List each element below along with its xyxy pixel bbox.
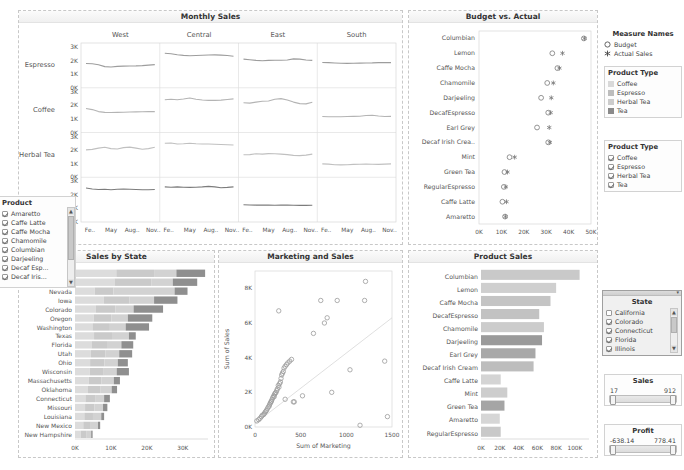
scroll-thumb[interactable] — [68, 216, 74, 260]
color-swatch — [608, 90, 614, 96]
svg-text:Fe..: Fe.. — [242, 227, 252, 233]
checkbox[interactable] — [2, 256, 8, 262]
product-filter-item[interactable]: Caffe Mocha — [2, 227, 63, 236]
profit-slider-track[interactable] — [609, 445, 677, 453]
sales-min-value: 17 — [610, 387, 618, 394]
monthly-sales-plot[interactable]: WestCentralEastSouthEspresso0K1K2K3KCoff… — [19, 23, 402, 244]
svg-text:3K: 3K — [70, 88, 79, 95]
svg-text:May: May — [263, 227, 276, 234]
product-type-filter-label: Tea — [617, 181, 628, 188]
svg-text:Mint: Mint — [462, 153, 476, 160]
measure-legend-label: Actual Sales — [614, 50, 653, 57]
product-type-filter-item[interactable]: Espresso — [608, 162, 678, 171]
checkbox[interactable] — [2, 274, 8, 280]
svg-text:Colorado: Colorado — [45, 306, 72, 313]
svg-text:Fe..: Fe.. — [321, 227, 331, 233]
svg-text:RegularEspresso: RegularEspresso — [424, 183, 475, 191]
product-type-filter-label: Herbal Tea — [617, 172, 650, 179]
state-filter-item[interactable]: Florida — [606, 335, 669, 344]
marketing-sales-title: Marketing and Sales — [219, 251, 402, 263]
product-type-filter-item[interactable]: Herbal Tea — [608, 171, 678, 180]
product-filter-item[interactable]: Darjeeling — [2, 254, 63, 263]
product-type-legend-item[interactable]: Espresso — [608, 88, 678, 97]
state-filter-window[interactable]: State CaliforniaColoradoConnecticutFlori… — [602, 290, 682, 356]
state-filter-item[interactable]: Colorado — [606, 317, 669, 326]
checkbox[interactable] — [2, 211, 8, 217]
profit-filter[interactable]: Profit -638.14 778.41 — [604, 424, 682, 456]
checkbox[interactable] — [606, 310, 612, 316]
scroll-up-arrow[interactable]: ▲ — [671, 309, 677, 316]
budget-actual-plot[interactable]: ColumbianLemonCaffe MochaChamomileDarjee… — [409, 23, 597, 244]
measure-names-title: Measure Names — [604, 30, 682, 38]
product-filter-item[interactable]: Chamomile — [2, 236, 63, 245]
svg-text:Texas: Texas — [54, 332, 72, 339]
svg-text:2K: 2K — [70, 57, 79, 64]
measure-legend-item[interactable]: Budget — [604, 40, 682, 49]
product-type-filter-item[interactable]: Coffee — [608, 153, 678, 162]
profit-slider-handle-right[interactable] — [670, 445, 676, 455]
product-sales-plot[interactable]: ColumbianLemonCaffe MochaDecafEspressoCh… — [409, 263, 597, 457]
checkbox[interactable] — [606, 346, 612, 352]
svg-text:100K: 100K — [567, 445, 582, 451]
product-type-filter-item[interactable]: Tea — [608, 180, 678, 189]
budget-actual-title: Budget vs. Actual — [409, 11, 597, 23]
product-filter-item[interactable]: Decaf Esp... — [2, 263, 63, 272]
scroll-down-arrow[interactable]: ▼ — [671, 345, 677, 352]
state-filter-label: Colorado — [615, 318, 643, 325]
checkbox[interactable] — [608, 173, 614, 179]
svg-text:10K: 10K — [496, 229, 507, 235]
checkbox[interactable] — [608, 155, 614, 161]
sales-slider-handle-right[interactable] — [670, 395, 676, 405]
svg-text:1K: 1K — [70, 70, 79, 77]
measure-legend-label: Budget — [614, 41, 637, 48]
state-filter-item[interactable]: California — [606, 308, 669, 317]
product-type-legend-item[interactable]: Herbal Tea — [608, 97, 678, 106]
product-type-legend-label: Tea — [617, 107, 628, 114]
checkbox[interactable] — [2, 247, 8, 253]
sales-filter[interactable]: Sales 17 912 — [604, 374, 682, 406]
product-filter-item[interactable]: Columbian — [2, 245, 63, 254]
svg-text:East: East — [271, 31, 286, 39]
product-type-legend-item[interactable]: Coffee — [608, 79, 678, 88]
state-filter-scrollbar[interactable]: ▲ ▼ — [670, 308, 678, 353]
checkbox[interactable] — [2, 229, 8, 235]
checkbox[interactable] — [2, 265, 8, 271]
product-type-legend-item[interactable]: Tea — [608, 106, 678, 115]
checkbox[interactable] — [2, 220, 8, 226]
checkbox[interactable] — [608, 164, 614, 170]
checkbox[interactable] — [608, 182, 614, 188]
svg-text:0K: 0K — [71, 445, 79, 451]
svg-text:Caffe Mocha: Caffe Mocha — [440, 299, 479, 306]
svg-text:Connecticut: Connecticut — [36, 395, 73, 402]
state-filter-label: California — [615, 309, 645, 316]
sales-slider-handle-left[interactable] — [610, 395, 616, 405]
checkbox[interactable] — [2, 238, 8, 244]
product-filter-label: Amaretto — [11, 210, 40, 217]
svg-text:Espresso: Espresso — [25, 61, 55, 69]
svg-text:2K: 2K — [70, 146, 79, 153]
checkbox[interactable] — [606, 328, 612, 334]
svg-text:Columbian: Columbian — [442, 34, 475, 41]
state-filter-item[interactable]: Illinois — [606, 344, 669, 353]
scroll-down-arrow[interactable]: ▼ — [68, 279, 74, 286]
svg-text:Mint: Mint — [465, 390, 479, 397]
product-filter-item[interactable]: Decaf Iris... — [2, 272, 63, 281]
marketing-sales-plot[interactable]: 0K2K4K6K8K050010001500Sum of MarketingSu… — [219, 263, 402, 457]
sales-slider-track[interactable] — [609, 395, 677, 403]
svg-text:Chamomile: Chamomile — [440, 79, 475, 86]
color-swatch — [608, 108, 614, 114]
checkbox[interactable] — [606, 337, 612, 343]
scroll-thumb[interactable] — [671, 317, 677, 333]
product-filter-scrollbar[interactable]: ▲ ▼ — [67, 207, 75, 287]
measure-legend-item[interactable]: Actual Sales — [604, 49, 682, 58]
state-filter-item[interactable]: Connecticut — [606, 326, 669, 335]
product-type-filter[interactable]: Product Type CoffeeEspressoHerbal TeaTea — [604, 140, 682, 192]
scroll-up-arrow[interactable]: ▲ — [68, 208, 74, 215]
svg-text:0K: 0K — [245, 424, 253, 430]
sales-by-state-plot[interactable]: New YorkIllinoisNevadaIowaColoradoOregon… — [19, 263, 214, 457]
product-filter-item[interactable]: Caffe Latte — [2, 218, 63, 227]
product-filter-item[interactable]: Amaretto — [2, 209, 63, 218]
product-filter[interactable]: Product AmarettoCaffe LatteCaffe MochaCh… — [0, 196, 76, 288]
checkbox[interactable] — [606, 319, 612, 325]
profit-slider-handle-left[interactable] — [610, 445, 616, 455]
